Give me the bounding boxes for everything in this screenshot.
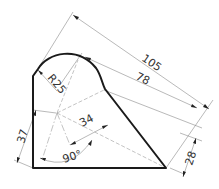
dim-28-label: 28 [182, 150, 199, 167]
technical-drawing: 105 78 R25 37 34 90° 28 [0, 0, 219, 189]
dimension-lines [14, 12, 213, 177]
part-outline [33, 54, 166, 168]
dim-78-label: 78 [134, 70, 152, 88]
dim-angle-label: 90° [61, 147, 84, 165]
dim-34-label: 34 [77, 112, 95, 130]
